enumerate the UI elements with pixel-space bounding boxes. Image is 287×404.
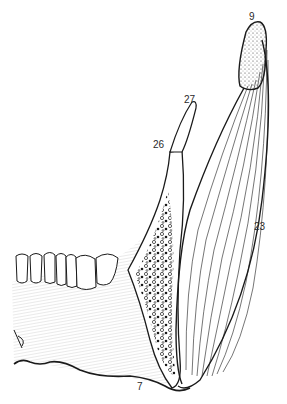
- label-9: 9: [249, 12, 255, 22]
- tooth: [56, 254, 66, 286]
- tooth: [66, 255, 77, 288]
- tooth: [16, 254, 28, 283]
- tooth: [44, 253, 55, 284]
- anatomical-figure: [0, 0, 287, 404]
- tooth: [76, 255, 96, 289]
- label-7: 7: [137, 382, 143, 392]
- muscle-origin-bone: [239, 22, 267, 90]
- label-23: 23: [254, 222, 265, 232]
- coronoid-process: [170, 102, 196, 152]
- label-26: 26: [153, 140, 164, 150]
- muscle: [176, 40, 269, 388]
- tooth: [30, 254, 42, 284]
- label-27: 27: [184, 95, 195, 105]
